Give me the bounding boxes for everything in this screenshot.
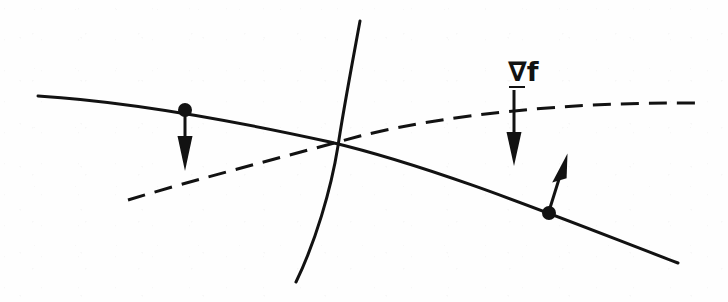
gradient-vector-labeled-arrowhead <box>507 132 522 166</box>
function-symbol: f <box>527 56 539 87</box>
gradient-vector-left-arrowhead <box>178 136 193 171</box>
point-right <box>542 206 556 220</box>
gradient-label: ∇ f <box>508 58 539 86</box>
gradient-vector-right-arrowhead <box>552 154 567 183</box>
nabla-symbol-group: ∇ <box>508 58 527 86</box>
vector-underbar <box>509 86 525 88</box>
nabla-symbol: ∇ <box>508 56 527 87</box>
diagram-svg <box>0 0 728 302</box>
constraint-curve-solid <box>38 96 678 263</box>
figure-canvas: ∇ f <box>0 0 728 302</box>
point-left <box>178 103 192 117</box>
